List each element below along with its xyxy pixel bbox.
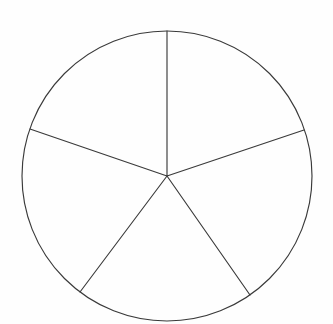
figure-canvas — [0, 0, 333, 324]
pie-chart-svg — [0, 0, 333, 324]
